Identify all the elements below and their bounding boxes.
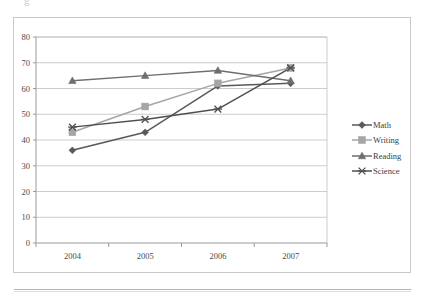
data-point-marker-legend-math xyxy=(359,121,366,128)
y-tick-label: 80 xyxy=(22,32,31,42)
y-tick-label: 60 xyxy=(22,84,31,94)
series-line-reading xyxy=(72,70,290,80)
legend-marker-x-icon xyxy=(351,164,373,178)
legend-marker-square-icon xyxy=(351,133,373,147)
y-tick-label: 0 xyxy=(26,238,30,248)
legend-marker-triangle-icon xyxy=(351,149,373,163)
figure-container: g 01020304050607080 2004200520062007 Mat… xyxy=(0,0,426,300)
y-tick-label: 30 xyxy=(22,161,31,171)
x-tick-label: 2004 xyxy=(64,251,82,261)
series-lines-group xyxy=(72,68,290,150)
y-tick-label: 10 xyxy=(22,212,31,222)
legend-item-math[interactable]: Math xyxy=(351,117,421,133)
y-tick-label: 40 xyxy=(22,135,31,145)
legend-item-writing[interactable]: Writing xyxy=(351,133,421,149)
series-line-writing xyxy=(72,68,290,132)
legend-item-science[interactable]: Science xyxy=(351,164,421,180)
data-point-marker-math-2004 xyxy=(69,147,76,154)
x-tick-label: 2007 xyxy=(282,251,299,261)
data-point-marker-writing-2006 xyxy=(214,80,221,87)
data-point-marker-writing-2005 xyxy=(142,103,149,110)
data-point-marker-science-2005 xyxy=(141,116,149,123)
y-axis-tick-labels: 01020304050607080 xyxy=(22,32,31,248)
data-point-marker-legend-writing xyxy=(359,137,366,144)
x-tick-label: 2006 xyxy=(209,251,226,261)
legend-label: Math xyxy=(373,121,391,130)
legend-label: Writing xyxy=(373,136,399,145)
legend-item-reading[interactable]: Reading xyxy=(351,148,421,164)
y-tick-label: 50 xyxy=(22,109,31,119)
legend-marker-diamond-icon xyxy=(351,118,373,132)
chart-legend: MathWritingReadingScience xyxy=(351,117,421,179)
x-tick-label: 2005 xyxy=(137,251,154,261)
page-horizontal-rule xyxy=(14,289,411,290)
y-tick-label: 70 xyxy=(22,58,31,68)
gridlines-group xyxy=(36,37,327,243)
legend-label: Reading xyxy=(373,152,401,161)
legend-label: Science xyxy=(373,167,399,176)
data-point-marker-science-2006 xyxy=(214,106,222,113)
x-tick-marks-group xyxy=(36,243,327,247)
data-point-marker-legend-science xyxy=(358,168,366,175)
x-axis-tick-labels: 2004200520062007 xyxy=(64,251,299,261)
y-tick-label: 20 xyxy=(22,187,31,197)
